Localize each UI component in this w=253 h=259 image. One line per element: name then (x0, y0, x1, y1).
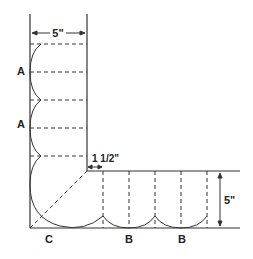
label-a1: A (17, 65, 25, 77)
right-dimension (218, 173, 222, 226)
horizontal-arm-dashes (103, 171, 207, 228)
label-a2: A (17, 118, 25, 130)
label-b1: B (125, 233, 133, 245)
right-height-label: 5" (224, 194, 235, 206)
label-b2: B (178, 233, 186, 245)
vertical-arm-dashes (30, 44, 87, 156)
offset-label: 1 1/2" (92, 153, 119, 164)
scallop-corner-diagram: 5" 5" 1 1/2" A A C B B (0, 0, 253, 259)
diagonal-dash (30, 171, 87, 228)
label-c: C (45, 233, 53, 245)
offset-dimension (88, 165, 102, 169)
scallop-curves (30, 44, 207, 228)
top-width-label: 5" (52, 27, 63, 39)
